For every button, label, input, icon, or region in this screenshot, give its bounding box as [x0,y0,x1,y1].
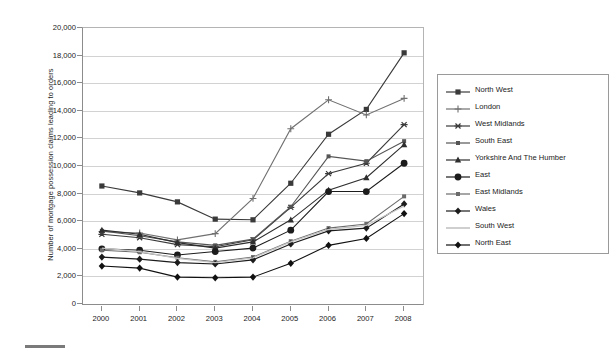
y-tick-label: 20,000 [32,23,76,32]
data-point-marker [174,259,180,266]
data-point-marker [136,256,142,263]
y-tick-mark [77,137,82,138]
footer-rule [25,345,65,348]
legend-item-east-midlands[interactable]: East Midlands [438,183,608,200]
series-south-east [100,139,406,247]
legend-label: London [475,102,500,111]
y-tick-mark [77,27,82,28]
data-point-marker [99,183,104,188]
x-tick-mark [328,306,329,311]
data-point-marker [287,227,294,234]
x-tick-label: 2002 [156,314,196,323]
chart-legend: North WestLondonWest MidlandsSouth EastY… [437,74,609,254]
data-point-marker [402,194,406,198]
data-point-marker [136,265,142,272]
x-tick-label: 2000 [81,314,121,323]
x-tick-label: 2007 [345,314,385,323]
data-point-marker [250,217,255,222]
x-tick-mark [290,306,291,311]
data-point-marker [212,248,219,255]
data-point-marker [326,132,331,137]
data-point-marker [213,217,218,222]
y-tick-label: 0 [32,299,76,308]
data-point-marker [99,262,105,269]
legend-item-london[interactable]: London [438,98,608,115]
legend-item-wales[interactable]: Wales [438,200,608,217]
y-tick-label: 14,000 [32,105,76,114]
data-point-marker [288,181,293,186]
y-tick-mark [77,110,82,111]
legend-marker-icon [445,169,471,181]
x-tick-label: 2001 [119,314,159,323]
legend-item-south-east[interactable]: South East [438,132,608,149]
x-tick-mark [252,306,253,311]
legend-item-yorkshire-and-the-humber[interactable]: Yorkshire And The Humber [438,149,608,166]
data-point-marker [325,242,331,249]
data-point-marker [456,192,460,196]
chart-figure: Number of mortgage possession claims lea… [0,0,613,353]
x-tick-mark [214,306,215,311]
legend-marker-icon [445,135,471,147]
x-tick-mark [403,306,404,311]
data-point-marker [455,207,461,214]
legend-item-west-midlands[interactable]: West Midlands [438,115,608,132]
data-point-marker [455,123,462,128]
y-tick-label: 12,000 [32,133,76,142]
y-tick-label: 18,000 [32,50,76,59]
data-point-marker [401,95,408,102]
data-point-marker [401,122,408,127]
legend-label: South East [475,136,512,145]
legend-label: Yorkshire And The Humber [475,153,566,162]
legend-marker-icon [445,84,471,96]
legend-item-north-east[interactable]: North East [438,234,608,251]
data-point-marker [288,216,294,222]
x-tick-mark [101,306,102,311]
legend-item-east[interactable]: East [438,166,608,183]
data-point-marker [325,171,332,176]
data-point-marker [455,105,462,112]
x-tick-mark [365,306,366,311]
series-line [102,141,404,245]
data-point-marker [455,241,461,248]
y-tick-label: 4,000 [32,243,76,252]
y-tick-mark [77,275,82,276]
x-tick-label: 2006 [308,314,348,323]
data-point-marker [363,188,370,195]
x-tick-label: 2008 [383,314,423,323]
x-tick-mark [139,306,140,311]
data-point-marker [401,160,408,167]
series-layer [83,28,423,304]
y-tick-mark [77,165,82,166]
series-west-midlands [98,122,407,249]
data-point-marker [288,260,294,267]
plot-area [82,27,424,305]
legend-marker-icon [445,118,471,130]
data-point-marker [175,199,180,204]
x-tick-label: 2005 [270,314,310,323]
legend-item-north-west[interactable]: North West [438,81,608,98]
legend-marker-icon [445,152,471,164]
data-point-marker [99,227,105,233]
data-point-marker [455,173,462,180]
data-point-marker [401,210,407,217]
series-line [102,53,404,220]
data-point-marker [137,190,142,195]
data-point-marker [363,235,369,242]
data-point-marker [289,205,293,209]
legend-label: North East [475,238,511,247]
legend-label: Wales [475,204,496,213]
x-tick-label: 2004 [232,314,272,323]
x-tick-mark [176,306,177,311]
data-point-marker [174,273,180,280]
y-tick-mark [77,248,82,249]
data-point-marker [364,159,368,163]
y-tick-label: 2,000 [32,271,76,280]
series-east-midlands [100,194,406,264]
legend-label: West Midlands [475,119,525,128]
legend-label: North West [475,85,513,94]
data-point-marker [364,107,369,112]
x-tick-label: 2003 [194,314,234,323]
data-point-marker [456,141,460,145]
legend-item-south-west[interactable]: South West [438,217,608,234]
y-tick-mark [77,193,82,194]
